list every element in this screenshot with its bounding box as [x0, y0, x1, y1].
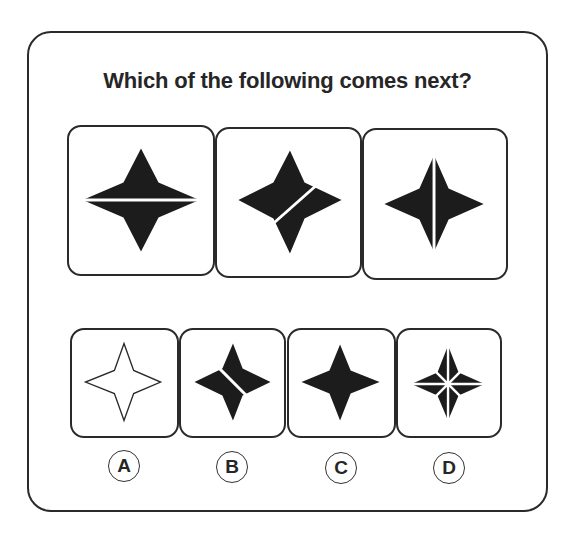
sequence-item-3 — [362, 128, 508, 280]
star-outline-icon — [72, 330, 177, 436]
option-c-box[interactable] — [287, 328, 396, 438]
option-a-box[interactable] — [70, 328, 179, 438]
star-filled-icon — [289, 330, 394, 436]
option-d-label[interactable]: D — [433, 452, 465, 484]
star-diagonal-line-icon — [181, 330, 284, 436]
sequence-item-1 — [67, 125, 215, 276]
star-eight-lines-icon — [398, 330, 500, 436]
option-b-label[interactable]: B — [216, 451, 248, 483]
option-b-box[interactable] — [179, 328, 286, 438]
star-horizontal-line-icon — [69, 127, 213, 274]
sequence-item-2 — [215, 127, 362, 278]
option-d-box[interactable] — [396, 328, 502, 438]
option-a-label[interactable]: A — [108, 450, 140, 482]
star-diagonal-line-icon — [217, 129, 360, 276]
star-vertical-line-icon — [364, 130, 506, 278]
option-c-label[interactable]: C — [325, 452, 357, 484]
question-title: Which of the following comes next? — [0, 68, 575, 94]
